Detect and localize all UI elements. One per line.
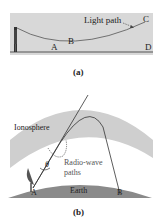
caption-b: (b) <box>73 208 84 217</box>
panel-a-background <box>10 13 153 55</box>
observer-icon <box>14 27 17 52</box>
radio-wave-label: Radio-wave <box>64 159 103 167</box>
point-a-b-label: A <box>31 189 37 197</box>
point-b-label: B <box>68 37 74 46</box>
caption-a: (a) <box>73 68 84 77</box>
paths-label: paths <box>64 169 81 177</box>
earth-label: Earth <box>70 187 87 195</box>
point-d-label: D <box>145 43 152 52</box>
light-path-label: Light path <box>84 16 121 25</box>
point-b-b-label: B <box>117 189 122 197</box>
point-c-label: C <box>143 15 149 24</box>
ionosphere-label: Ionosphere <box>14 124 50 132</box>
point-a-label: A <box>51 43 58 52</box>
theta-label: θ <box>45 161 49 169</box>
